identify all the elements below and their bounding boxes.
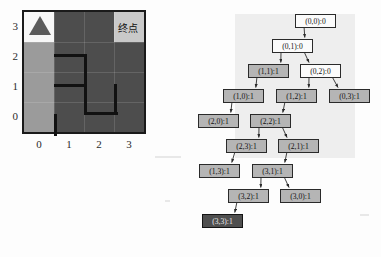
- search-tree-panel: (0,0):0(0,1):0(1,1):1(0,2):0(1,0):1(1,2)…: [190, 0, 381, 257]
- maze-cell-1-0: [54, 102, 84, 132]
- goal-label: 终点: [118, 20, 138, 35]
- x-axis-tick-3: 3: [121, 138, 137, 150]
- maze-cell-2-2: [84, 42, 114, 72]
- tree-node-n22[interactable]: (2,2):1: [250, 114, 291, 128]
- scan-speck: [165, 200, 170, 202]
- tree-node-n13[interactable]: (1,3):1: [199, 164, 240, 178]
- tree-node-n12[interactable]: (1,2):1: [276, 89, 317, 103]
- tree-node-n23[interactable]: (2,3):1: [226, 139, 267, 153]
- tree-node-n33[interactable]: (3,3):1: [202, 214, 243, 228]
- tree-node-n31[interactable]: (3,1):1: [252, 164, 293, 178]
- maze-cell-1-1: [54, 72, 84, 102]
- x-axis-tick-2: 2: [91, 138, 107, 150]
- maze-cell-1-3: [54, 12, 84, 42]
- maze-wall-segment: [54, 54, 86, 57]
- maze-cell-0-0: [24, 102, 54, 132]
- maze-cell-3-2: [114, 42, 144, 72]
- tree-edge-n32-n33: [235, 202, 237, 213]
- y-axis-tick-0: 0: [4, 110, 18, 122]
- maze-cell-2-1: [84, 72, 114, 102]
- maze-cell-3-1: [114, 72, 144, 102]
- tree-edge-n31-n30: [284, 177, 289, 188]
- maze-panel: 终点 0123 3210: [0, 0, 190, 257]
- scan-speck: [360, 214, 369, 216]
- maze-wall-segment: [114, 84, 117, 115]
- x-axis-tick-1: 1: [61, 138, 77, 150]
- maze-cell-1-2: [54, 42, 84, 72]
- tree-edge-n10-n20: [231, 102, 232, 113]
- tree-node-n20[interactable]: (2,0):1: [198, 114, 239, 128]
- maze-cell-2-3: [84, 12, 114, 42]
- maze-cell-0-1: [24, 72, 54, 102]
- maze-wall-segment: [84, 54, 87, 86]
- maze-wall-segment: [54, 114, 57, 136]
- tree-node-n01[interactable]: (0,1):0: [272, 39, 313, 53]
- tree-node-n00[interactable]: (0,0):0: [295, 14, 336, 28]
- tree-node-n30[interactable]: (3,0):1: [280, 189, 321, 203]
- y-axis-tick-2: 2: [4, 50, 18, 62]
- tree-node-n10[interactable]: (1,0):1: [223, 89, 264, 103]
- start-triangle-icon: [29, 16, 51, 35]
- tree-node-n32[interactable]: (3,2):1: [228, 189, 269, 203]
- tree-background-wash: [235, 14, 355, 158]
- maze-cell-2-0: [84, 102, 114, 132]
- maze-wall-segment: [84, 84, 87, 114]
- tree-node-n11[interactable]: (1,1):1: [248, 64, 289, 78]
- tree-node-n02[interactable]: (0,2):0: [300, 64, 341, 78]
- maze-wall-segment: [54, 84, 86, 87]
- y-axis-tick-3: 3: [4, 20, 18, 32]
- tree-node-n21[interactable]: (2,1):1: [278, 139, 319, 153]
- scan-speck: [155, 156, 181, 158]
- y-axis-tick-1: 1: [4, 80, 18, 92]
- maze-stage: 终点: [22, 10, 146, 134]
- maze-cell-3-0: [114, 102, 144, 132]
- maze-wall-segment: [84, 112, 118, 115]
- x-axis-tick-0: 0: [31, 138, 47, 150]
- tree-node-n03[interactable]: (0,3):1: [329, 89, 370, 103]
- maze-cell-0-2: [24, 42, 54, 72]
